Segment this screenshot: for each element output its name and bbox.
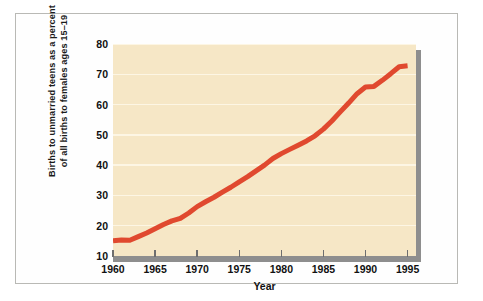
x-axis-tick-label: 1995: [396, 263, 419, 275]
x-axis-tick-label: 1975: [228, 263, 251, 275]
y-axis-tick-label: 60: [74, 99, 108, 111]
y-axis-tick-label: 10: [74, 250, 108, 262]
y-axis-tick-label: 40: [74, 159, 108, 171]
x-axis-tick-mark: [323, 250, 324, 257]
x-axis-tick-labels: 19601965197019751980198519901995: [113, 263, 416, 279]
x-axis-tick-mark: [281, 250, 282, 257]
series-line: [113, 44, 416, 256]
x-axis-title: Year: [113, 280, 416, 292]
figure-container: Births to unmarried teens as a percent o…: [0, 0, 483, 301]
x-axis-tick-mark: [407, 250, 408, 257]
y-axis-tick-label: 30: [74, 189, 108, 201]
y-axis-tick-label: 20: [74, 220, 108, 232]
x-axis-tick-label: 1985: [312, 263, 335, 275]
x-axis-tick-mark: [239, 250, 240, 257]
plot-area: [113, 44, 416, 256]
x-axis-tick-mark: [365, 250, 366, 257]
x-axis-tick-mark: [112, 250, 113, 257]
x-axis-tick-mark: [196, 250, 197, 257]
y-axis-tick-label: 50: [74, 129, 108, 141]
x-axis-tick-marks: [113, 250, 416, 257]
x-axis-tick-label: 1965: [143, 263, 166, 275]
x-axis-tick-label: 1960: [101, 263, 124, 275]
y-axis-title: Births to unmarried teens as a percent o…: [41, 0, 75, 201]
y-axis-title-line-1: Births to unmarried teens as a percent: [46, 5, 59, 177]
plot-shadow-bar: [416, 50, 421, 262]
y-axis-tick-labels: 1020304050607080: [74, 38, 108, 262]
chart-frame: Births to unmarried teens as a percent o…: [15, 13, 458, 284]
x-axis-tick-mark: [154, 250, 155, 257]
x-axis-tick-label: 1980: [270, 263, 293, 275]
x-axis-tick-label: 1990: [354, 263, 377, 275]
x-axis-tick-label: 1970: [185, 263, 208, 275]
y-axis-title-line-2: of all births to females ages 15–19: [58, 15, 71, 168]
y-axis-tick-label: 70: [74, 68, 108, 80]
y-axis-tick-label: 80: [74, 38, 108, 50]
